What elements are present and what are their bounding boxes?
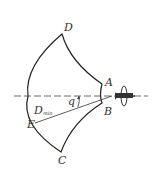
label-angle: q xyxy=(68,95,75,108)
label-d: D xyxy=(63,21,73,34)
zone-outline xyxy=(27,34,102,152)
label-range-subscript: min xyxy=(43,110,53,116)
diagram-canvas: D A B E C D min q xyxy=(0,0,158,173)
label-e: E xyxy=(26,118,35,131)
label-a: A xyxy=(104,76,113,89)
label-range: D xyxy=(33,104,43,117)
label-c: C xyxy=(58,154,67,167)
aircraft-icon xyxy=(115,86,135,106)
label-b: B xyxy=(103,105,112,118)
